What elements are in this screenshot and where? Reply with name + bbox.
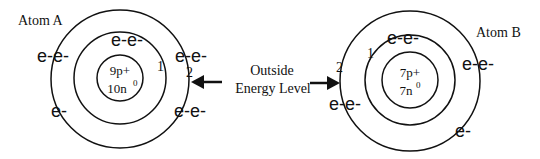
energy-level-callout: Outside Energy Level xyxy=(191,63,340,96)
atom-a-shell-2-label: 2 xyxy=(186,65,193,80)
atom-a-shell-1-label: 1 xyxy=(157,59,164,74)
arrow-right-head-icon xyxy=(327,76,340,90)
atom-b-electrons-outer-bottom-right: e- xyxy=(455,121,471,141)
atom-a-electrons-outer-bottom-left: e- xyxy=(51,101,67,121)
callout-line-2: Energy Level xyxy=(235,81,311,96)
atom-a-protons: 9p+ xyxy=(110,63,130,78)
atom-b-nucleus xyxy=(382,52,438,108)
atom-a-neutron-sup: 0 xyxy=(133,78,138,88)
atom-b: Atom B 7p+ 7n 0 1 2 e-e- e-e- e-e- e- xyxy=(329,11,521,151)
atom-a-electrons-shell1-top: e-e- xyxy=(111,30,143,50)
atom-a-neutrons: 10n xyxy=(107,81,127,96)
atom-diagram: Atom A 9p+ 10n 0 1 2 e-e- e-e- e-e- e- e… xyxy=(0,0,540,159)
atom-b-electrons-outer-left: e-e- xyxy=(329,94,361,114)
atom-b-electrons-outer-right: e-e- xyxy=(462,54,494,74)
atom-b-neutrons: 7n xyxy=(400,83,414,98)
atom-b-shell-1 xyxy=(365,35,455,125)
callout-line-1: Outside xyxy=(250,63,294,78)
atom-b-label: Atom B xyxy=(476,25,521,40)
atom-b-shell-1-label: 1 xyxy=(367,46,374,61)
atom-a: Atom A 9p+ 10n 0 1 2 e-e- e-e- e-e- e- e… xyxy=(18,10,207,148)
atom-a-electrons-outer-left: e-e- xyxy=(37,46,69,66)
atom-b-neutron-sup: 0 xyxy=(416,80,421,90)
atom-a-electrons-outer-right-top: e-e- xyxy=(175,46,207,66)
atom-b-protons: 7p+ xyxy=(400,65,420,80)
atom-a-electrons-outer-bottom-right: e-e- xyxy=(174,101,206,121)
atom-a-label: Atom A xyxy=(18,13,64,28)
atom-b-shell-2-label: 2 xyxy=(336,60,343,75)
atom-b-electrons-shell1-top: e-e- xyxy=(387,28,419,48)
